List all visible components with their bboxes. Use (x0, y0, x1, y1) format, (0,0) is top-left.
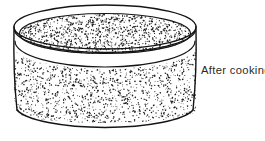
after-cooking-caption: After cooking (201, 63, 265, 77)
dish-body-fill (14, 5, 196, 123)
figure-container: After cooking (0, 0, 265, 141)
